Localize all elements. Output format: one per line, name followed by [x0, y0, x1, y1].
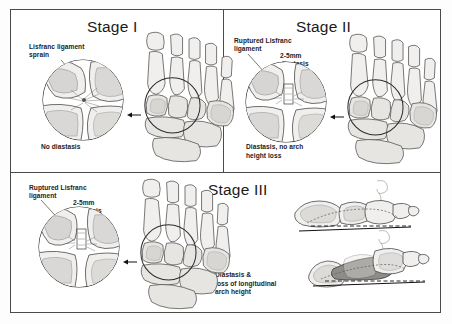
- arrow-left-icon: [330, 115, 344, 120]
- foot-lateral-collapsed-arch: [309, 231, 429, 288]
- panel-stage-3: Stage III Ruptured Lisfranc ligament 2-5…: [11, 173, 440, 313]
- arrow-left-icon: [123, 260, 137, 265]
- foot-skeleton-dorsal-stage-3: [141, 179, 230, 308]
- stage-2-illustration: [224, 10, 440, 172]
- ground-line: [299, 227, 411, 231]
- stage-1-illustration: [11, 10, 223, 172]
- magnified-circle-stage-2: [242, 62, 330, 142]
- diastasis-gap: [77, 229, 86, 249]
- diastasis-gap: [284, 84, 293, 104]
- foot-lateral-normal-arch: [295, 181, 419, 232]
- panel-stage-2: Stage II Ruptured Lisfranc ligament 2-5m…: [224, 10, 440, 172]
- magnified-circle-stage-3: [35, 207, 123, 287]
- figure-frame: Stage I Lisfranc ligament sprain No dias…: [10, 9, 441, 313]
- foot-skeleton-dorsal-stage-1: [145, 32, 234, 161]
- stage-3-illustration: [11, 173, 440, 313]
- foot-skeleton-dorsal-stage-2: [348, 34, 437, 163]
- arrow-left-icon: [127, 113, 141, 118]
- magnified-circle-stage-1: [39, 60, 127, 140]
- panel-stage-1: Stage I Lisfranc ligament sprain No dias…: [11, 10, 223, 172]
- figure-canvas: Stage I Lisfranc ligament sprain No dias…: [0, 0, 452, 324]
